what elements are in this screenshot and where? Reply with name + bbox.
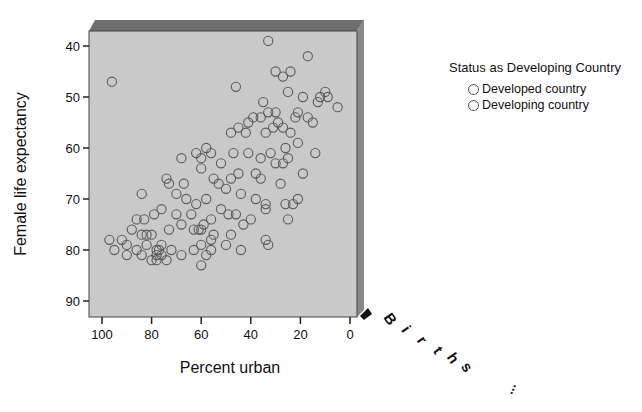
x-tick-label: 100 (91, 327, 113, 342)
legend-title: Status as Developing Country (440, 60, 630, 75)
legend: Status as Developing Country Developed c… (440, 60, 630, 113)
y-tick-label: 70 (66, 192, 80, 207)
legend-label: Developed country (482, 82, 586, 97)
y-tick-label: 50 (66, 90, 80, 105)
plot-area (89, 31, 357, 317)
z-label-ellipsis: ... (501, 380, 519, 396)
z-label-letter: t (430, 343, 447, 357)
z-label-letter: s (458, 359, 477, 376)
legend-label: Developing country (482, 98, 589, 113)
x-tick-label: 0 (346, 327, 353, 342)
z-label-letter: i (398, 322, 414, 335)
z-label-letter: r (414, 333, 431, 348)
plot-top-face (89, 20, 364, 31)
z-axis-label: Births... (380, 310, 519, 397)
z-label-letter: h (444, 349, 463, 366)
x-axis-label: Percent urban (180, 359, 281, 376)
y-tick-label: 40 (66, 39, 80, 54)
y-axis-label: Female life expectancy (12, 92, 29, 256)
z-label-letter: B (380, 310, 400, 329)
y-tick-label: 60 (66, 141, 80, 156)
circle-marker-icon (468, 84, 479, 95)
x-tick-label: 40 (244, 327, 258, 342)
legend-item-developed: Developed country (468, 81, 630, 97)
circle-marker-icon (468, 100, 479, 111)
x-tick-label: 20 (293, 327, 307, 342)
x-tick-label: 60 (194, 327, 208, 342)
plot-side-face (357, 20, 364, 317)
y-axis: 405060708090 (66, 39, 89, 309)
y-tick-label: 90 (66, 294, 80, 309)
y-tick-label: 80 (66, 243, 80, 258)
legend-item-developing: Developing country (468, 97, 630, 113)
x-tick-label: 80 (144, 327, 158, 342)
x-axis: 100806040200 (91, 317, 353, 342)
